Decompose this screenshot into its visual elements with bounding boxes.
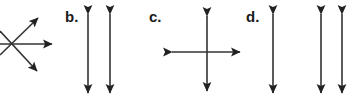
panel-label-c: c. bbox=[149, 9, 162, 24]
panel-d-arrows bbox=[273, 14, 342, 93]
vector-diagram-canvas bbox=[0, 0, 361, 107]
panel-b-arrows bbox=[88, 14, 110, 93]
panel-a-arrows bbox=[0, 18, 52, 71]
panel-label-b: b. bbox=[65, 9, 78, 24]
panel-label-d: d. bbox=[246, 9, 259, 24]
arrow-layer bbox=[0, 14, 342, 93]
vector-diagram-figure: b. c. d. bbox=[0, 0, 361, 107]
panel-c-arrows bbox=[172, 16, 240, 91]
